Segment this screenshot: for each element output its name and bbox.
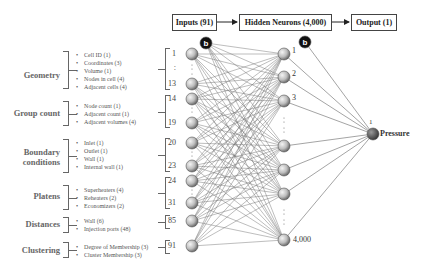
hidden-label: 4,000 xyxy=(293,235,311,244)
distances-items: Wall (6) Injection ports (48) xyxy=(76,217,130,233)
clustering-items: Degree of Membership (3) Cluster Members… xyxy=(76,243,148,259)
input-node xyxy=(186,215,198,227)
list-item: Cluster Membership (3) xyxy=(76,251,148,259)
input-number: 13 xyxy=(158,79,176,88)
list-item: Wall (6) xyxy=(76,217,130,225)
hidden-node xyxy=(278,234,290,246)
category-geometry: Geometry xyxy=(0,70,60,80)
input-number: 91 xyxy=(158,241,176,250)
boundary-items: Inlet (1) Outlet (1) Wall (1) Internal w… xyxy=(76,139,123,171)
input-node xyxy=(186,117,198,129)
list-item: Superheaters (4) xyxy=(76,186,124,194)
input-node xyxy=(186,175,198,187)
category-line: conditions xyxy=(0,157,60,167)
input-number: 20 xyxy=(158,138,176,147)
list-item: Internal wall (1) xyxy=(76,163,123,171)
output-node xyxy=(367,128,379,140)
category-clustering: Clustering xyxy=(0,245,60,255)
hidden-neurons-box: Hidden Neurons (4,000) xyxy=(239,14,332,31)
hidden-label: 1 xyxy=(292,46,296,55)
input-number: 85 xyxy=(158,216,176,225)
output-box: Output (1) xyxy=(351,14,397,31)
brace-boundary xyxy=(63,139,69,173)
list-item: Outlet (1) xyxy=(76,147,123,155)
category-platens: Platens xyxy=(0,191,60,201)
list-item: Node count (1) xyxy=(76,102,136,110)
network-connections: bb xyxy=(0,0,426,275)
category-line: Boundary xyxy=(0,147,60,157)
group-count-items: Node count (1) Adjacent count (1) Adjace… xyxy=(76,102,136,126)
hidden-node xyxy=(278,188,290,200)
hidden-node xyxy=(278,48,290,60)
brace-group-count xyxy=(63,101,69,126)
hidden-label: 2 xyxy=(292,69,296,78)
bias-label: b xyxy=(204,39,209,48)
input-node xyxy=(186,137,198,149)
list-item: Coordinates (3) xyxy=(76,59,127,67)
hidden-node xyxy=(278,140,290,152)
list-item: Reheaters (2) xyxy=(76,194,124,202)
list-item: Adjacent count (1) xyxy=(76,110,136,118)
input-number: 14 xyxy=(158,94,176,103)
output-index: 1 xyxy=(369,118,373,126)
list-item: Injection ports (48) xyxy=(76,225,130,233)
input-node xyxy=(186,78,198,90)
inputs-box: Inputs (91) xyxy=(172,14,217,31)
list-item: Adjacent cells (4) xyxy=(76,83,127,91)
category-group-count: Group count xyxy=(0,108,60,118)
hidden-node xyxy=(278,95,290,107)
input-number: 23 xyxy=(158,161,176,170)
input-node xyxy=(186,197,198,209)
list-item: Economizers (2) xyxy=(76,202,124,210)
list-item: Degree of Membership (3) xyxy=(76,243,148,251)
hidden-label: 3 xyxy=(292,93,296,102)
bias-label: b xyxy=(303,38,308,47)
list-item: Inlet (1) xyxy=(76,139,123,147)
category-boundary-conditions: Boundary conditions xyxy=(0,147,60,167)
input-number: 19 xyxy=(158,118,176,127)
input-node xyxy=(186,93,198,105)
input-node xyxy=(186,240,198,252)
hidden-node xyxy=(278,164,290,176)
input-number: 1 xyxy=(158,49,176,58)
brace-distances xyxy=(63,217,69,233)
brace-platens xyxy=(63,185,69,210)
list-item: Nodes in cell (4) xyxy=(76,75,127,83)
hidden-node xyxy=(278,71,290,83)
list-item: Volume (1) xyxy=(76,67,127,75)
platens-items: Superheaters (4) Reheaters (2) Economize… xyxy=(76,186,124,210)
ellipsis: : xyxy=(158,63,176,72)
brace-clustering xyxy=(63,242,69,258)
category-distances: Distances xyxy=(0,219,60,229)
output-label: Pressure xyxy=(380,129,409,138)
list-item: Wall (1) xyxy=(76,155,123,163)
brace-geometry xyxy=(63,51,69,89)
input-number: 24 xyxy=(158,176,176,185)
input-number: 31 xyxy=(158,198,176,207)
input-node xyxy=(186,160,198,172)
input-node xyxy=(186,48,198,60)
list-item: Cell ID (1) xyxy=(76,51,127,59)
list-item: Adjacent volumes (4) xyxy=(76,118,136,126)
geometry-items: Cell ID (1) Coordinates (3) Volume (1) N… xyxy=(76,51,127,91)
